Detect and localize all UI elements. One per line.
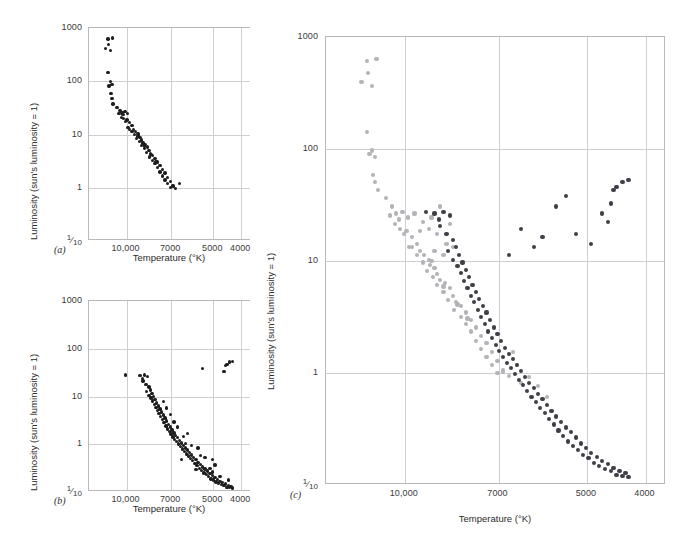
data-point [499,339,503,343]
data-point [224,364,227,367]
data-point [579,441,583,445]
data-point [109,49,112,52]
data-point [527,381,531,385]
data-point [455,264,459,268]
data-point [529,395,533,399]
data-point [497,349,501,353]
data-point [124,373,127,376]
data-point [145,390,148,393]
data-point [554,204,558,208]
data-point [231,360,234,363]
data-point [501,355,505,359]
data-point [609,469,613,473]
data-point [146,375,149,378]
y-tick-label: 100 [50,75,82,85]
data-point [438,224,442,228]
data-point [145,151,148,154]
data-point [460,260,464,264]
data-point [117,112,120,115]
data-point [143,144,146,147]
data-point [106,37,109,40]
y-tick-label: 1000 [50,295,82,305]
y-tick-label: 1000 [50,22,82,32]
data-point [126,126,129,129]
data-point [620,180,624,184]
data-point [545,403,549,407]
data-point [486,329,490,333]
data-point [552,422,556,426]
data-point [446,249,450,253]
data-point [163,178,166,181]
data-point [467,275,471,279]
data-point [470,283,474,287]
data-point [540,397,544,401]
data-point [190,444,193,447]
data-point [620,474,624,478]
data-point [606,462,610,466]
data-point [182,435,185,438]
data-point [451,238,455,242]
data-point [507,352,511,356]
data-point [532,386,536,390]
data-point [194,468,197,471]
data-point [561,434,565,438]
panel-a-label: (a) [54,244,66,255]
data-point [437,217,441,221]
data-point [110,97,113,100]
y-tick-label: 1 [286,367,318,377]
data-point [564,194,568,198]
data-point [490,336,494,340]
data-point [441,210,445,214]
data-point [211,458,214,461]
panel-c: 10,000700050004000 10001001011⁄10 Temper… [270,0,697,554]
data-point [476,308,480,312]
x-tick-label: 7000 [487,488,507,498]
data-point [511,357,515,361]
data-point [111,102,114,105]
data-point [611,188,615,192]
data-point [566,439,570,443]
hr-diagram-figure: 10,000700050004000 10001001011⁄10 Temper… [0,0,697,554]
data-point [492,325,496,329]
data-point [592,461,596,465]
data-point [564,425,568,429]
data-point [521,383,525,387]
panel-b-y-axis-title: Luminosity (sun's luminosity = 1) [28,354,39,491]
data-point [534,400,538,404]
data-point [543,411,547,415]
data-point [515,363,519,367]
data-point [589,242,593,246]
data-point [469,294,473,298]
data-point [474,290,478,294]
data-point [107,84,110,87]
data-point [472,300,476,304]
y-tick-label: 10 [286,255,318,265]
data-point [483,322,487,326]
data-point [503,346,507,350]
data-point [477,297,481,301]
data-point [603,467,607,471]
data-point [519,369,523,373]
data-point [584,446,588,450]
data-point [213,463,216,466]
panel-c-data-points [270,0,697,554]
data-point [571,444,575,448]
data-point [184,442,187,445]
data-point [614,473,618,477]
data-point [626,178,630,182]
data-point [507,253,511,257]
data-point [180,458,183,461]
panel-a-y-axis-title: Luminosity (sun's luminosity = 1) [28,103,39,240]
y-tick-label: 10 [50,391,82,401]
data-point [600,459,604,463]
data-point [158,170,161,173]
data-point [462,279,466,283]
data-point [199,454,202,457]
data-point [106,71,109,74]
panel-b: 10,000700050004000 10001001011⁄10 Temper… [0,280,270,554]
x-tick-label: 5000 [576,488,596,498]
data-point [569,430,573,434]
data-point [424,210,428,214]
data-point [589,451,593,455]
y-tick-label: 100 [50,343,82,353]
